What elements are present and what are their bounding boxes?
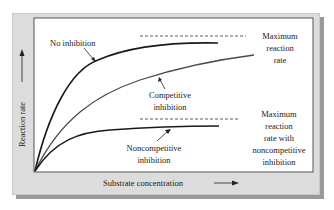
x-axis-arrow-icon [232, 181, 239, 186]
label-max-nc-line3: rate with [264, 133, 295, 143]
label-max-nc-line1: Maximum [261, 109, 297, 119]
label-max-rate-line2: reaction [266, 43, 294, 53]
label-max-rate-line1: Maximum [262, 31, 298, 41]
label-max-nc-line5: inhibition [262, 157, 296, 167]
enzyme-kinetics-chart: No inhibition Competitive inhibition Non… [0, 0, 334, 210]
label-noncompetitive-line1: Noncompetitive [127, 143, 182, 153]
x-axis-label: Substrate concentration [103, 178, 184, 188]
label-noncompetitive-line2: inhibition [137, 155, 171, 165]
label-competitive-line1: Competitive [149, 90, 191, 100]
label-max-nc-line4: noncompetitive [253, 145, 306, 155]
y-axis-label: Reaction rate [17, 102, 27, 147]
label-no-inhibition: No inhibition [50, 38, 96, 48]
label-competitive-line2: inhibition [153, 102, 187, 112]
y-axis-label-group: Reaction rate [17, 49, 27, 147]
label-max-rate-line3: rate [274, 55, 287, 65]
label-max-nc-line2: reaction [265, 121, 293, 131]
y-axis-arrow-icon [20, 49, 25, 56]
x-axis-label-group: Substrate concentration [103, 178, 239, 188]
